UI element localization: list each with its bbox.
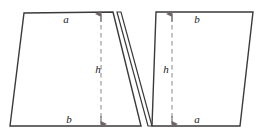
figure-canvas: a b h h b a — [0, 0, 261, 132]
geometry-diagram — [0, 0, 261, 132]
label-b-bottom-left: b — [66, 114, 72, 125]
label-h-right: h — [163, 64, 169, 75]
label-h-left: h — [95, 64, 101, 75]
label-a-bottom-right: a — [194, 114, 200, 125]
label-b-top-right: b — [194, 14, 200, 25]
label-a-top-left: a — [63, 14, 69, 25]
